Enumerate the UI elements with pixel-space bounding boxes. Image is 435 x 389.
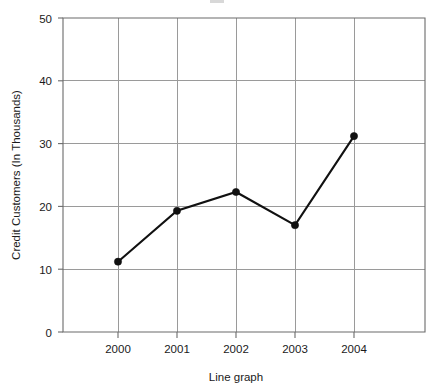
y-tick-label-10: 10 [39,264,52,276]
y-axis-ticks [58,18,63,332]
x-tick-label-2002: 2002 [223,343,249,355]
data-point-2001 [173,207,180,214]
x-axis-ticks [118,332,354,338]
data-point-2004 [350,133,357,140]
chart-canvas: 50 40 30 20 10 0 2000 2001 2002 2003 200… [0,0,435,389]
y-tick-label-30: 30 [39,138,52,150]
x-tick-label-2003: 2003 [282,343,308,355]
y-tick-label-40: 40 [39,75,52,87]
x-tick-label-2000: 2000 [105,343,131,355]
x-tick-label-2004: 2004 [341,343,367,355]
y-tick-label-20: 20 [39,201,52,213]
data-point-2002 [232,188,239,195]
x-axis-title: Line graph [209,371,263,383]
plot-area-background [63,18,425,332]
y-axis-title: Credit Customers (In Thousands) [10,90,22,260]
y-tick-label-0: 0 [46,327,52,339]
y-axis-tick-labels: 50 40 30 20 10 0 [39,13,52,339]
line-chart: 50 40 30 20 10 0 2000 2001 2002 2003 200… [0,0,435,389]
x-axis-tick-labels: 2000 2001 2002 2003 2004 [105,343,367,355]
x-tick-label-2001: 2001 [164,343,190,355]
data-point-2000 [114,258,121,265]
data-point-2003 [291,222,298,229]
cropped-title-artifact [210,0,224,3]
y-tick-label-50: 50 [39,13,52,25]
